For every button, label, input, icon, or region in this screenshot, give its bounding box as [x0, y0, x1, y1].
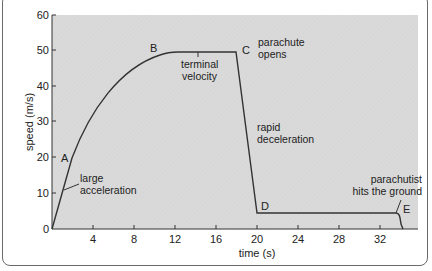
x-tick-32: 32	[374, 233, 386, 245]
svg-text:opens: opens	[258, 48, 287, 60]
y-tick-labels: 60 50 40 30 20 10 0	[37, 9, 49, 235]
point-c-label: C	[242, 44, 250, 56]
svg-text:terminal: terminal	[181, 58, 218, 70]
x-tick-16: 16	[210, 233, 222, 245]
y-axis-label: speed (m/s)	[23, 93, 35, 151]
y-tick-30: 30	[37, 115, 49, 127]
x-tick-24: 24	[292, 233, 304, 245]
svg-text:deceleration: deceleration	[257, 133, 314, 145]
x-tick-labels: 4 8 12 16 20 24 28 32	[90, 233, 386, 245]
svg-text:rapid: rapid	[257, 121, 281, 133]
x-tick-12: 12	[169, 233, 181, 245]
point-b-label: B	[150, 42, 157, 54]
speed-time-chart: 60 50 40 30 20 10 0 4 8 12 16 20 24 28 3…	[0, 0, 432, 271]
x-tick-8: 8	[131, 233, 137, 245]
y-tick-0: 0	[43, 223, 49, 235]
y-tick-10: 10	[37, 187, 49, 199]
point-d-label: D	[261, 200, 269, 212]
svg-text:acceleration: acceleration	[80, 184, 137, 196]
point-e-label: E	[403, 203, 410, 215]
point-a-label: A	[61, 152, 69, 164]
svg-text:velocity: velocity	[182, 70, 218, 82]
y-tick-50: 50	[37, 44, 49, 56]
svg-text:parachutist: parachutist	[371, 173, 422, 185]
annotation-terminal-velocity: terminal velocity	[181, 58, 218, 82]
x-tick-4: 4	[90, 233, 96, 245]
y-tick-20: 20	[37, 151, 49, 163]
svg-text:hits the ground: hits the ground	[353, 185, 423, 197]
svg-text:parachute: parachute	[258, 36, 305, 48]
y-tick-60: 60	[37, 9, 49, 21]
svg-text:large: large	[80, 172, 104, 184]
y-tick-40: 40	[37, 80, 49, 92]
x-tick-28: 28	[333, 233, 345, 245]
x-tick-20: 20	[251, 233, 263, 245]
x-axis-label: time (s)	[239, 247, 276, 259]
